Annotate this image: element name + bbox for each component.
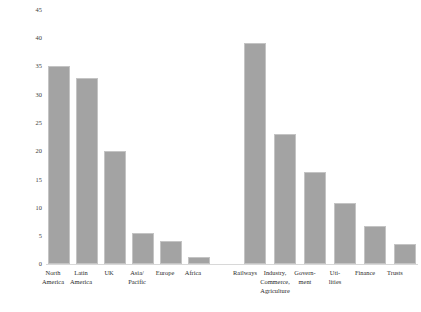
bar-uk <box>104 151 126 264</box>
x-label-line: Africa <box>176 268 210 277</box>
bar-slot-industry <box>274 10 296 264</box>
bar-asia-pacific <box>132 233 154 264</box>
y-tick-10: 10 <box>20 205 42 211</box>
bar-trusts <box>394 244 416 264</box>
bar-finance <box>364 226 386 264</box>
bar-slot-government <box>304 10 326 264</box>
x-label-line: Trusts <box>376 268 414 277</box>
y-tick-35: 35 <box>20 63 42 69</box>
y-tick-30: 30 <box>20 92 42 98</box>
x-label-line: Pacific <box>120 277 154 286</box>
y-tick-15: 15 <box>20 177 42 183</box>
bar-slot-trusts <box>394 10 416 264</box>
bar-slot-finance <box>364 10 386 264</box>
bar-utilities <box>334 203 356 264</box>
bar-chart: Portfolio Share in percent (× 100) 45 40… <box>0 0 421 312</box>
bar-europe <box>160 241 182 264</box>
x-axis-baseline <box>46 264 418 265</box>
bar-africa <box>188 257 210 264</box>
bar-slot-europe <box>160 10 182 264</box>
bar-slot-asia-pacific <box>132 10 154 264</box>
bar-north-america <box>48 66 70 264</box>
bar-slot-latin-america <box>76 10 98 264</box>
bar-railways <box>244 43 266 264</box>
x-label-trusts: Trusts <box>376 268 414 277</box>
bar-latin-america <box>76 78 98 264</box>
bar-slot-north-america <box>48 10 70 264</box>
bar-group-region <box>46 10 209 264</box>
x-label-line: lities <box>316 277 354 286</box>
bar-slot-railways <box>244 10 266 264</box>
bar-slot-uk <box>104 10 126 264</box>
bar-government <box>304 172 326 264</box>
x-label-line: Agriculture <box>256 286 294 295</box>
y-tick-0: 0 <box>20 261 42 267</box>
plot-area <box>46 10 418 264</box>
y-tick-20: 20 <box>20 148 42 154</box>
y-tick-5: 5 <box>20 233 42 239</box>
y-tick-25: 25 <box>20 120 42 126</box>
y-tick-40: 40 <box>20 35 42 41</box>
bar-slot-utilities <box>334 10 356 264</box>
x-label-line: America <box>64 277 98 286</box>
bar-group-sector <box>242 10 418 264</box>
x-label-africa: Africa <box>176 268 210 277</box>
bar-industry <box>274 134 296 264</box>
y-tick-45: 45 <box>20 7 42 13</box>
bar-slot-africa <box>188 10 210 264</box>
